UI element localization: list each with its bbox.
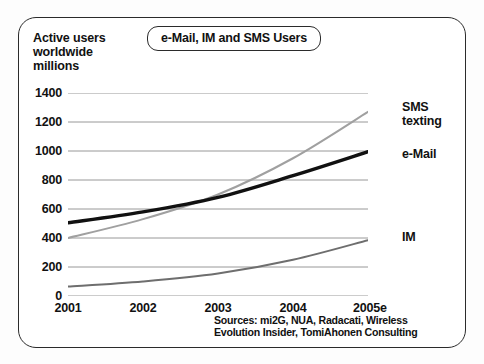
x-tick-2003: 2003 — [204, 301, 231, 315]
x-tick-2004: 2004 — [279, 301, 306, 315]
plot-area — [68, 93, 368, 296]
y-tick-600: 600 — [18, 203, 62, 215]
y-tick-1200: 1200 — [18, 116, 62, 128]
series-lines — [68, 112, 368, 287]
x-tick-2001: 2001 — [54, 301, 81, 315]
sources-footnote: Sources: mi2G, NUA, Radacati, Wireless E… — [214, 314, 462, 339]
series-line-e-mail — [68, 152, 368, 223]
y-tick-1400: 1400 — [18, 87, 62, 99]
y-tick-800: 800 — [18, 174, 62, 186]
chart-figure: Active users worldwide millions e-Mail, … — [0, 0, 484, 364]
series-line-sms-texting — [68, 112, 368, 238]
chart-svg — [68, 93, 368, 296]
series-line-im — [68, 240, 368, 286]
x-tick-2002: 2002 — [129, 301, 156, 315]
y-tick-200: 200 — [18, 261, 62, 273]
x-tick-2005e: 2005e — [353, 301, 387, 315]
chart-title: e-Mail, IM and SMS Users — [147, 26, 321, 51]
series-label-im: IM — [402, 231, 416, 245]
y-tick-1000: 1000 — [18, 145, 62, 157]
series-label-email: e-Mail — [402, 148, 436, 162]
y-tick-400: 400 — [18, 232, 62, 244]
series-label-sms: SMS texting — [402, 101, 442, 128]
